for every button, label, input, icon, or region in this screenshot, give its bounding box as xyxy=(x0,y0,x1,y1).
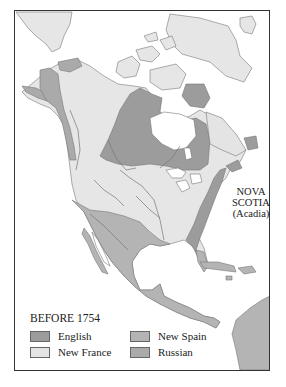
newfoundland xyxy=(244,136,258,150)
legend-item-new-france: New France xyxy=(30,346,111,358)
new-france-swatch xyxy=(30,347,50,358)
iceland xyxy=(240,16,256,34)
legend-item-new-spain: New Spain xyxy=(130,330,207,342)
arctic-island xyxy=(136,46,160,62)
legend-item-english: English xyxy=(30,330,92,342)
legend-item-russian: Russian xyxy=(130,346,193,358)
hispaniola xyxy=(238,266,256,274)
south-america xyxy=(232,296,270,370)
nova-scotia-label: NOVA SCOTIA (Acadia) xyxy=(228,186,274,219)
florida-new-spain xyxy=(196,250,208,272)
new-spain-swatch xyxy=(130,331,150,342)
arctic-island xyxy=(116,56,140,78)
arctic-island xyxy=(144,32,158,42)
baffin-english xyxy=(182,84,210,108)
legend-title: BEFORE 1754 xyxy=(30,312,100,324)
cuba xyxy=(200,262,236,272)
great-lakes xyxy=(190,174,202,184)
siberia xyxy=(16,12,72,52)
jamaica xyxy=(226,276,232,280)
russian-swatch xyxy=(130,347,150,358)
english-swatch xyxy=(30,331,50,342)
arctic-island xyxy=(150,64,186,90)
